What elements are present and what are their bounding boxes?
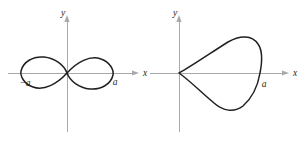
panel-cardioid: y x a — [150, 8, 298, 132]
y-axis-arrow-left — [64, 15, 69, 22]
x-axis-label-right: x — [292, 68, 298, 78]
label-a-right-panel: a — [262, 79, 267, 89]
label-negative-a: −a — [19, 78, 30, 88]
label-a-left-panel: a — [113, 77, 118, 87]
polar-curves-figure: y x −a a y x a — [0, 0, 305, 143]
x-axis-label-left: x — [142, 68, 148, 78]
y-axis-label-left: y — [60, 8, 66, 18]
cardioid-curve — [179, 37, 262, 110]
figure-sheet: y x −a a y x a — [0, 0, 305, 143]
y-axis-arrow-right — [176, 15, 181, 22]
x-axis-arrow-left — [132, 70, 139, 75]
y-axis-label-right: y — [172, 8, 178, 18]
panel-lemniscate: y x −a a — [8, 8, 148, 132]
x-axis-arrow-right — [282, 70, 289, 75]
